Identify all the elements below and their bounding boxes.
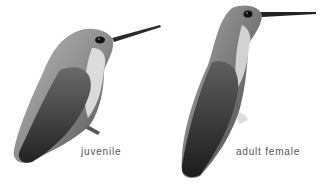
illustration-canvas: juvenile adult female (0, 0, 325, 185)
juvenile-caption: juvenile (81, 146, 121, 157)
adult-female-caption: adult female (236, 146, 300, 157)
juvenile-hummingbird-illustration (0, 0, 170, 170)
adult-female-hummingbird-illustration (160, 0, 325, 185)
